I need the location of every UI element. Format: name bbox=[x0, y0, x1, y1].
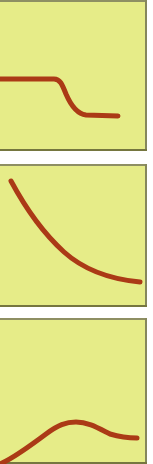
curve-path-top bbox=[0, 79, 118, 116]
curve-plot-middle bbox=[0, 164, 147, 307]
curve-panel-bottom bbox=[0, 318, 147, 464]
curve-path-middle bbox=[11, 181, 140, 282]
curve-panel-middle bbox=[0, 164, 147, 307]
figure-stack bbox=[0, 0, 153, 464]
curve-plot-top bbox=[0, 0, 147, 151]
curve-path-bottom bbox=[0, 422, 137, 464]
curve-plot-bottom bbox=[0, 318, 147, 464]
curve-panel-top bbox=[0, 0, 147, 151]
